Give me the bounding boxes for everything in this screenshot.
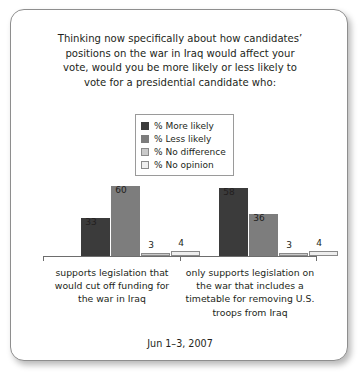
- category-label-0-line-1: supports legislation that: [45, 266, 179, 279]
- chart-title-line-4: vote for a presidential candidate who:: [33, 76, 327, 91]
- category-label-0-line-2: would cut off funding for: [45, 279, 179, 292]
- category-label-0: supports legislation that would cut off …: [45, 266, 179, 306]
- value-label-g1-no-opinion: 4: [302, 238, 336, 248]
- legend-label-less-likely: % Less likely: [154, 134, 211, 144]
- legend-swatch-more-likely: [141, 122, 149, 130]
- chart-title-line-3: vote, would you be more likely or less l…: [33, 61, 327, 76]
- value-label-g0-no-difference: 3: [134, 240, 168, 250]
- legend-label-more-likely: % More likely: [154, 121, 214, 131]
- value-label-g1-no-difference: 3: [272, 240, 306, 250]
- legend-item-no-opinion: % No opinion: [141, 158, 226, 171]
- chart-card: Thinking now specifically about how cand…: [10, 9, 348, 361]
- category-label-1-line-3: timetable for removing U.S.: [183, 292, 317, 305]
- chart-title-line-2: positions on the war in Iraq would affec…: [33, 47, 327, 62]
- x-axis-tick-right: [316, 256, 317, 261]
- legend-item-no-difference: % No difference: [141, 145, 226, 158]
- value-label-g0-more-likely: 33: [74, 217, 108, 227]
- category-label-1: only supports legislation on the war tha…: [183, 266, 317, 319]
- legend-label-no-difference: % No difference: [154, 147, 226, 157]
- category-label-0-line-3: the war in Iraq: [45, 292, 179, 305]
- value-label-g1-less-likely: 36: [242, 213, 276, 223]
- legend-label-no-opinion: % No opinion: [154, 160, 214, 170]
- chart-footer-date: Jun 1–3, 2007: [33, 338, 327, 349]
- value-label-g1-more-likely: 58: [212, 187, 246, 197]
- chart-legend: % More likely % Less likely % No differe…: [135, 114, 234, 176]
- legend-swatch-less-likely: [141, 135, 149, 143]
- category-label-1-line-2: the war that includes a: [183, 279, 317, 292]
- chart-title-line-1: Thinking now specifically about how cand…: [33, 32, 327, 47]
- category-label-1-line-4: troops from Iraq: [183, 306, 317, 319]
- legend-swatch-no-difference: [141, 148, 149, 156]
- category-label-1-line-1: only supports legislation on: [183, 266, 317, 279]
- legend-item-less-likely: % Less likely: [141, 132, 226, 145]
- x-axis-tick-left: [43, 256, 44, 261]
- value-label-g0-less-likely: 60: [104, 185, 138, 195]
- chart-title: Thinking now specifically about how cand…: [33, 32, 327, 90]
- x-axis-tick-middle: [180, 256, 181, 261]
- value-label-g0-no-opinion: 4: [164, 238, 198, 248]
- legend-item-more-likely: % More likely: [141, 119, 226, 132]
- legend-swatch-no-opinion: [141, 161, 149, 169]
